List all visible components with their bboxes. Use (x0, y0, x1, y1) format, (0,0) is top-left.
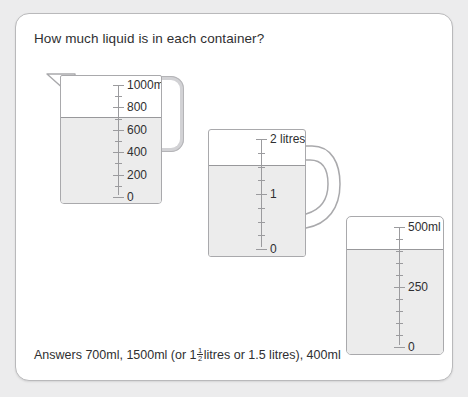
scale-tick-minor (258, 208, 265, 209)
scale-tick-minor (258, 167, 265, 168)
jug-body: 1000ml8006004002000 (60, 75, 162, 204)
scale-tick-major (113, 85, 124, 86)
jug-body: 2 litres10 (208, 129, 306, 257)
scale-tick-minor (258, 222, 265, 223)
scale-label-0: 0 (127, 190, 134, 204)
liquid-level (209, 165, 305, 257)
scale-tick-major (256, 139, 267, 140)
scale-tick-minor (396, 251, 403, 252)
scale-tick-minor (115, 141, 122, 142)
scale-tick-minor (258, 153, 265, 154)
worksheet-card: How much liquid is in each container? 10… (15, 13, 453, 381)
answers-line: Answers 700ml, 1500ml (or 112 litres or … (34, 347, 341, 363)
scale-tick-minor (115, 96, 122, 97)
scale-axis (261, 139, 262, 247)
scale-tick-minor (396, 311, 403, 312)
scale-label-0: 0 (270, 242, 277, 256)
scale-tick-minor (115, 163, 122, 164)
scale-tick-minor (396, 263, 403, 264)
fraction-denominator: 2 (197, 354, 203, 363)
container-measuring-beaker-500ml: 500ml2500 (343, 213, 451, 359)
scale-tick-major (256, 194, 267, 195)
liquid-level (347, 249, 443, 354)
scale-tick-major (394, 227, 405, 228)
scale-label-250: 250 (408, 280, 428, 294)
scale-tick-minor (258, 180, 265, 181)
mixed-fraction-one-half: 12 (197, 347, 203, 363)
scale-label-1000ml: 1000ml (127, 78, 162, 92)
scale-tick-minor (396, 239, 403, 240)
scale-tick-major (394, 347, 405, 348)
scale-tick-minor (396, 323, 403, 324)
scale-tick-minor (115, 119, 122, 120)
scale-label-400: 400 (127, 145, 147, 159)
fraction-numerator: 1 (197, 347, 203, 355)
scale-label-800: 800 (127, 100, 147, 114)
page-title: How much liquid is in each container? (34, 31, 264, 46)
scale-tick-minor (115, 186, 122, 187)
scale-label-0: 0 (408, 340, 415, 354)
beaker-body: 500ml2500 (346, 216, 444, 355)
scale-label-1: 1 (270, 187, 277, 201)
container-measuring-jug-1000ml: 1000ml8006004002000 (44, 61, 204, 206)
scale-tick-major (394, 287, 405, 288)
scale-tick-major (113, 197, 124, 198)
answers-suffix: litres or 1.5 litres), 400ml (204, 348, 341, 362)
scale-label-2-litres: 2 litres (270, 132, 305, 146)
scale-tick-major (113, 175, 124, 176)
scale-tick-major (113, 107, 124, 108)
scale-tick-minor (396, 335, 403, 336)
scale-tick-minor (396, 275, 403, 276)
scale-axis (118, 85, 119, 195)
scale-tick-major (113, 130, 124, 131)
scale-axis (399, 227, 400, 345)
scale-tick-minor (396, 299, 403, 300)
container-measuring-jug-2-litres: 2 litres10 (202, 126, 337, 261)
answers-prefix: Answers 700ml, 1500ml (or 1 (34, 348, 197, 362)
scale-tick-major (256, 249, 267, 250)
scale-tick-minor (258, 235, 265, 236)
scale-label-200: 200 (127, 168, 147, 182)
scale-label-500ml: 500ml (408, 220, 441, 234)
scale-tick-major (113, 152, 124, 153)
scale-label-600: 600 (127, 123, 147, 137)
